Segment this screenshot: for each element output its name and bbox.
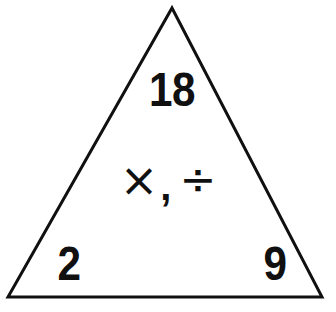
- triangle-bottom-left-number: 2: [25, 240, 113, 288]
- division-sign-icon: ÷: [179, 157, 216, 201]
- operator-separator-comma: ,: [158, 166, 179, 206]
- triangle-bottom-right-number: 9: [231, 240, 319, 288]
- multiplication-sign-icon: ×: [120, 157, 159, 203]
- triangle-top-number: 18: [128, 66, 216, 114]
- fact-triangle-diagram: 18 × , ÷ 2 9: [0, 0, 336, 312]
- operator-group: × , ÷: [58, 156, 278, 208]
